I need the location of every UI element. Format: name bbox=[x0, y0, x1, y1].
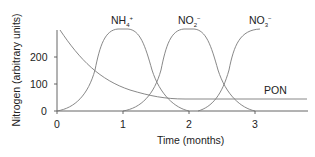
label-no3-main: NO bbox=[249, 14, 265, 26]
label-no3-sub: 3 bbox=[265, 22, 268, 28]
label-no2-main: NO bbox=[178, 14, 194, 26]
label-no3: NO3− bbox=[249, 14, 272, 28]
label-nh4-sub: 4 bbox=[126, 22, 129, 28]
label-no2: NO2− bbox=[178, 14, 201, 28]
y-tick-label-0: 0 bbox=[41, 105, 47, 117]
y-axis-title: Nitrogen (arbitrary units) bbox=[10, 10, 22, 130]
label-nh4-main: NH bbox=[111, 14, 126, 26]
x-tick-label-3: 3 bbox=[252, 118, 258, 130]
x-axis-title: Time (months) bbox=[157, 134, 224, 146]
label-no2-sub: 2 bbox=[194, 22, 197, 28]
label-nh4: NH4+ bbox=[111, 14, 133, 28]
x-tick-label-0: 0 bbox=[54, 118, 60, 130]
label-no3-sup: − bbox=[268, 15, 272, 21]
y-tick-label-100: 100 bbox=[30, 78, 48, 90]
label-pon: PON bbox=[264, 84, 287, 96]
x-tick-label-1: 1 bbox=[120, 118, 126, 130]
label-nh4-sup: + bbox=[130, 15, 134, 21]
x-tick-label-2: 2 bbox=[186, 118, 192, 130]
label-no2-sup: − bbox=[197, 15, 201, 21]
y-tick-label-200: 200 bbox=[30, 51, 48, 63]
